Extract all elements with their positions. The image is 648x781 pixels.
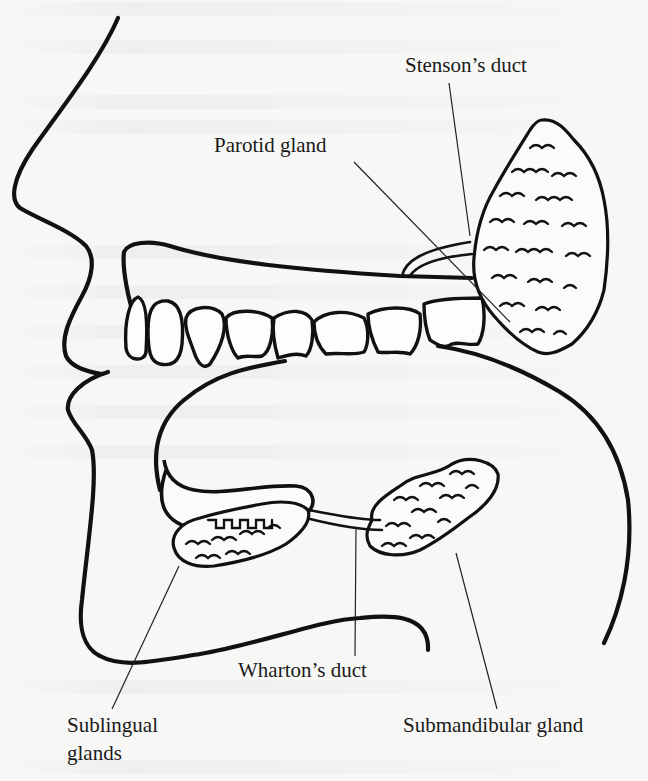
- tooth: [126, 297, 147, 359]
- salivary-gland-figure: Stenson’s duct Parotid gland Wharton’s d…: [0, 0, 648, 781]
- sublingual-glands-leader: [112, 566, 179, 709]
- stensons-duct-leader: [449, 83, 470, 236]
- tooth: [273, 311, 313, 358]
- submandibular-gland: [367, 459, 498, 554]
- tooth: [148, 301, 183, 365]
- whartons-duct-leader: [355, 527, 356, 656]
- tooth: [314, 312, 368, 354]
- label-submandibular-gland: Submandibular gland: [403, 712, 583, 738]
- whartons-duct-inner: [308, 510, 380, 520]
- parotid-gland: [474, 120, 608, 354]
- label-stensons-duct: Stenson’s duct: [405, 52, 527, 78]
- upper-teeth: [126, 297, 484, 366]
- label-parotid-gland: Parotid gland: [214, 132, 327, 158]
- label-sublingual-glands-line1: Sublingual: [67, 712, 158, 738]
- tooth: [226, 311, 273, 358]
- tooth: [368, 308, 421, 354]
- label-sublingual-glands-line2: glands: [67, 740, 122, 766]
- submandibular-gland-leader: [456, 553, 497, 709]
- face-profile-outline: [14, 18, 118, 374]
- tooth: [186, 308, 225, 367]
- label-whartons-duct: Wharton’s duct: [238, 657, 367, 683]
- tooth: [424, 298, 484, 346]
- lower-gum-line: [184, 361, 285, 400]
